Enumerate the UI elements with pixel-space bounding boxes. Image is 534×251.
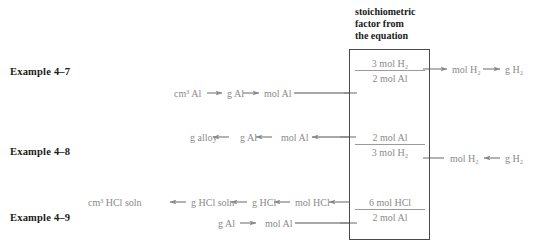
example-label-4-8: Example 4–8	[10, 146, 70, 157]
row1-factor-numerator: 3 mol H₂	[355, 58, 425, 71]
stoichiometry-flow-diagram: stoichiometric factor from the equation …	[0, 0, 534, 251]
row2-right-term-1: g H₂	[505, 153, 523, 164]
example-label-4-7: Example 4–7	[10, 66, 70, 77]
row1-right-term-0: mol H₂	[452, 64, 481, 75]
stoichiometric-factor-caption: stoichiometric factor from the equation	[355, 6, 416, 43]
row2-term-2: mol Al	[281, 132, 309, 143]
row1-term-2: mol Al	[264, 88, 292, 99]
row1-term-0: cm³ Al	[174, 88, 201, 99]
row3-term-1: g HCl soln	[191, 197, 234, 208]
row1-stoichiometric-factor: 3 mol H₂ 2 mol Al	[355, 58, 425, 84]
row3-factor-denominator: 2 mol Al	[355, 210, 425, 223]
row2-factor-numerator: 2 mol Al	[355, 132, 425, 145]
row3-factor-numerator: 6 mol HCl	[355, 197, 425, 210]
row2-factor-denominator: 3 mol H₂	[355, 145, 425, 158]
row2-term-0: g alloy	[190, 132, 218, 143]
caption-line-3: the equation	[355, 30, 416, 42]
row3-term-0: cm³ HCl soln	[88, 197, 142, 208]
caption-line-2: factor from	[355, 18, 416, 30]
row1-term-1: g Al	[227, 88, 244, 99]
row3-term-3: mol HCl	[295, 197, 330, 208]
row3-second-term-1: mol Al	[265, 218, 293, 229]
example-label-4-9: Example 4–9	[10, 212, 70, 223]
caption-line-1: stoichiometric	[355, 6, 416, 18]
row3-stoichiometric-factor: 6 mol HCl 2 mol Al	[355, 197, 425, 223]
row1-right-term-1: g H₂	[505, 64, 523, 75]
row1-factor-denominator: 2 mol Al	[355, 71, 425, 84]
row2-stoichiometric-factor: 2 mol Al 3 mol H₂	[355, 132, 425, 158]
row2-right-term-0: mol H₂	[450, 153, 479, 164]
connector-lines-layer	[0, 0, 534, 251]
row2-term-1: g Al	[240, 132, 257, 143]
row3-second-term-0: g Al	[218, 218, 235, 229]
row3-term-2: g HCl	[252, 197, 276, 208]
